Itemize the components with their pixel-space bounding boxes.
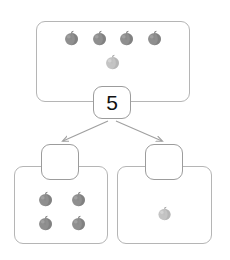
part-right-answer-bubble[interactable] bbox=[145, 144, 183, 180]
arrow-to-left-part bbox=[63, 121, 108, 141]
apple-icon bbox=[118, 30, 135, 46]
total-number-bubble[interactable]: 5 bbox=[93, 86, 131, 119]
apple-icon bbox=[91, 30, 108, 46]
apple-icon bbox=[70, 191, 87, 207]
apple-icon bbox=[146, 30, 163, 46]
apple-icon bbox=[104, 54, 121, 70]
arrow-to-right-part bbox=[116, 121, 162, 141]
apple-icon bbox=[37, 191, 54, 207]
number-bond-worksheet: 5 bbox=[0, 0, 230, 260]
apple-icon bbox=[70, 215, 87, 231]
apple-icon bbox=[157, 206, 172, 221]
apple-icon bbox=[37, 215, 54, 231]
part-left-answer-bubble[interactable] bbox=[41, 144, 79, 180]
apple-icon bbox=[63, 30, 80, 46]
